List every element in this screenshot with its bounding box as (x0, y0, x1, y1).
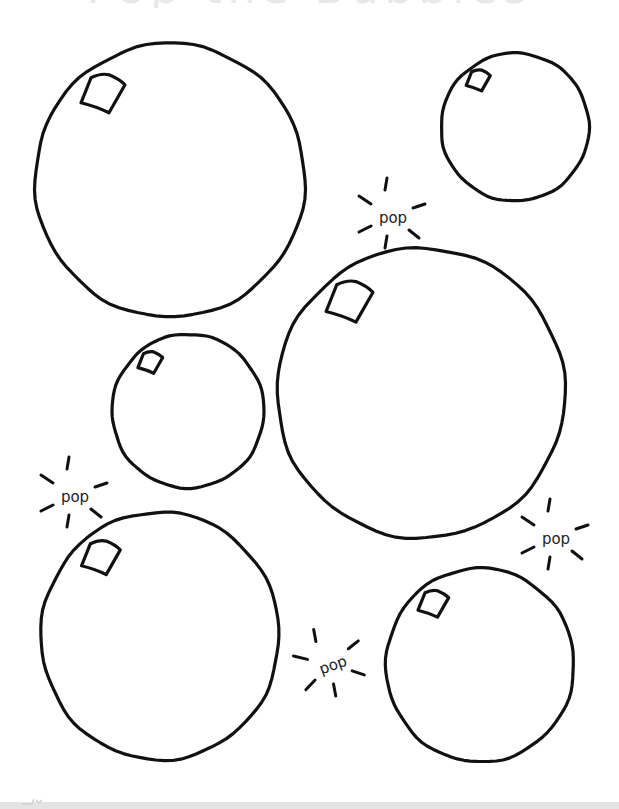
bubble-highlight-icon (138, 352, 163, 374)
burst-ray-icon (91, 509, 101, 517)
burst-ray-icon (294, 652, 308, 664)
burst-ray-icon (522, 517, 534, 525)
bubbles (35, 43, 590, 762)
bubble-outline (385, 568, 573, 762)
burst-ray-icon (95, 483, 107, 487)
bubble-large-top-left (35, 43, 306, 317)
burst-ray-icon (548, 499, 550, 511)
bubble-highlight-icon (466, 70, 490, 91)
bubble-outline (277, 248, 565, 539)
bottom-bar-mark-icon (20, 798, 42, 806)
bubble-small-top-right (442, 53, 590, 201)
pop-bursts: poppoppoppop (41, 178, 588, 705)
bubble-highlight-icon (81, 74, 125, 113)
pop-bottom-center: pop (287, 616, 373, 704)
burst-ray-icon (41, 475, 53, 483)
bubble-outline (442, 53, 590, 201)
bubble-large-center-right (277, 248, 565, 539)
pop-label: pop (379, 209, 407, 227)
burst-ray-icon (409, 230, 419, 238)
pop-right: pop (522, 499, 588, 569)
pop-label: pop (542, 530, 570, 548)
burst-ray-icon (548, 557, 550, 569)
burst-ray-icon (41, 505, 53, 511)
burst-ray-icon (385, 236, 387, 248)
burst-ray-icon (67, 457, 69, 469)
bubble-outline (112, 335, 264, 489)
burst-ray-icon (312, 629, 318, 641)
bubble-small-center-left (112, 335, 264, 489)
pop-left: pop (41, 457, 107, 527)
bubble-large-bottom-left (41, 512, 279, 761)
burst-ray-icon (359, 196, 371, 204)
burst-ray-icon (572, 551, 582, 559)
burst-ray-icon (359, 226, 371, 232)
pop-top-center: pop (359, 178, 425, 248)
bubble-medium-bottom-right (385, 568, 573, 762)
bubble-highlight-icon (326, 281, 373, 322)
burst-ray-icon (413, 204, 425, 208)
burst-ray-icon (385, 178, 387, 190)
burst-ray-icon (352, 667, 364, 678)
bubble-highlight-icon (418, 590, 449, 617)
burst-ray-icon (522, 547, 534, 553)
burst-ray-icon (347, 641, 360, 649)
bubble-outline (41, 512, 279, 761)
coloring-sheet: poppoppoppop (0, 0, 619, 809)
burst-ray-icon (304, 680, 317, 690)
burst-ray-icon (576, 525, 588, 529)
burst-ray-icon (67, 515, 69, 527)
bubble-outline (35, 43, 306, 317)
bottom-bar (0, 802, 619, 809)
pop-label: pop (61, 488, 89, 506)
pop-label: pop (317, 652, 350, 679)
burst-ray-icon (332, 684, 338, 696)
bubble-highlight-icon (82, 541, 121, 575)
